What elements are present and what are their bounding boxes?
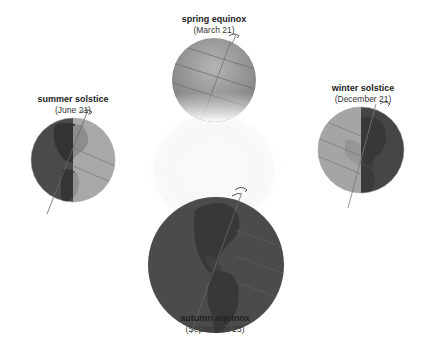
label-date: (June 21): [18, 105, 128, 116]
label-date: (December 21): [308, 94, 418, 105]
label-date: (March 21): [164, 25, 264, 36]
axis-spring: [232, 35, 236, 44]
label-title: summer solstice: [18, 94, 128, 105]
label-summer-solstice: summer solstice (June 21): [18, 94, 128, 116]
seasons-diagram: [0, 0, 429, 349]
globe-winter-solstice: [318, 102, 404, 208]
label-title: winter solstice: [308, 83, 418, 94]
label-title: spring equinox: [164, 14, 264, 25]
label-date: (September 23): [160, 324, 270, 335]
label-autumn-equinox: autumn equinox (September 23): [160, 313, 270, 335]
globe-summer-solstice: [31, 110, 120, 214]
label-title: autumn equinox: [160, 313, 270, 324]
label-winter-solstice: winter solstice (December 21): [308, 83, 418, 105]
label-spring-equinox: spring equinox (March 21): [164, 14, 264, 36]
